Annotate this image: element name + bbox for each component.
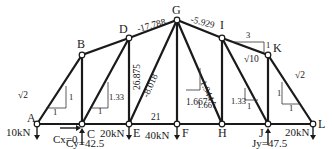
- slope-kl-rise: 1: [277, 88, 281, 98]
- load-f: 40kN: [145, 129, 170, 141]
- slope-cd-run: 1: [98, 106, 102, 116]
- node-l: [310, 121, 316, 127]
- slope-ij-rise: 1.33: [231, 96, 246, 106]
- slope-kl-hyp: √2: [295, 70, 305, 80]
- label-f: F: [182, 126, 189, 140]
- slope-cd-rise: 1.33: [109, 92, 124, 102]
- slope-ij-run: 1: [247, 101, 251, 111]
- node-g: [174, 17, 180, 23]
- label-b: B: [77, 37, 85, 51]
- truss-diagram: √2 1 1 1.33 1 1.667 1 1.33 1 3 1 √10 √2 …: [0, 0, 332, 149]
- force-ge: -8.018: [141, 72, 160, 99]
- reaction-cy-label: Cy=42.5: [66, 137, 104, 149]
- node-d: [126, 35, 132, 41]
- label-d: D: [119, 22, 128, 36]
- force-dg: -17.788: [136, 17, 167, 34]
- label-a: A: [27, 111, 36, 125]
- slope-ab-hyp: √2: [18, 90, 28, 100]
- label-e: E: [133, 126, 140, 140]
- label-h: H: [218, 126, 227, 140]
- label-i: I: [220, 18, 224, 32]
- node-b: [79, 52, 85, 58]
- node-k: [265, 52, 271, 58]
- node-f: [174, 121, 180, 127]
- force-de: 26.875: [132, 64, 142, 90]
- truss-members: [37, 20, 313, 124]
- load-l: 20kN: [285, 126, 310, 138]
- force-ef: 21: [151, 112, 161, 122]
- label-l: L: [318, 117, 325, 131]
- top-chord: [37, 20, 313, 124]
- slope-ik-rise: 1: [266, 40, 270, 50]
- node-e: [126, 121, 132, 127]
- reaction-jy-label: Jy=47.5: [252, 137, 287, 149]
- member-IJ: [222, 38, 268, 124]
- slope-kl-run: 1: [289, 103, 293, 113]
- node-c: [79, 121, 85, 127]
- member-CD: [82, 38, 129, 124]
- load-a: 10kN: [6, 126, 31, 138]
- slope-ab-run: 1: [53, 107, 57, 117]
- node-i: [219, 35, 225, 41]
- slope-ik-hyp: √10: [244, 54, 259, 64]
- label-g: G: [172, 3, 181, 17]
- truss-nodes: [34, 17, 316, 127]
- slope-ik-run: 3: [246, 30, 250, 40]
- label-k: K: [273, 41, 282, 55]
- slope-ab-rise: 1: [69, 92, 73, 102]
- force-gi: -5.929: [189, 14, 216, 30]
- force-gf-label: 1.667: [186, 97, 207, 107]
- node-j: [265, 121, 271, 127]
